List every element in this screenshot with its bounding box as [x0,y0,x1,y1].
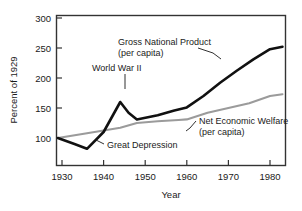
x-tick-label: 1940 [93,171,114,182]
annotation-world-war-ii: World War II [92,63,142,73]
annotation-net-economic-welfare: Net Economic Welfare (per capita) [199,116,288,137]
new-leader-line [186,121,196,131]
y-tick-label: 150 [35,103,51,114]
annotation-wwii-line1: World War II [92,63,142,73]
annotation-gnp-line1: Gross National Product [118,37,212,47]
great-depression-leader-line [96,140,104,144]
annotation-gnp: Gross National Product (per capita) [118,37,212,58]
y-tick-label: 100 [35,133,51,144]
annotation-new-line1: Net Economic Welfare [199,116,288,126]
y-axis-ticks [57,18,63,138]
line-chart: 300 250 200 150 100 Percent of 1929 1930… [0,0,302,211]
x-tick-label: 1980 [259,171,280,182]
chart-figure: 300 250 200 150 100 Percent of 1929 1930… [0,0,302,211]
y-tick-label: 250 [35,43,51,54]
x-tick-label: 1950 [135,171,156,182]
x-axis-ticks [62,160,270,166]
y-axis-tick-labels: 300 250 200 150 100 [35,13,51,144]
y-tick-label: 300 [35,13,51,24]
y-axis-title: Percent of 1929 [8,56,19,123]
x-axis-tick-labels: 1930 1940 1950 1960 1970 1980 [51,171,280,182]
annotation-new-line2: (per capita) [199,127,245,137]
gnp-leader-line [198,48,221,59]
x-axis-title: Year [161,189,180,200]
annotation-great-depression: Great Depression [107,140,178,150]
x-tick-label: 1930 [51,171,72,182]
annotation-gnp-line2: (per capita) [118,48,164,58]
x-tick-label: 1960 [176,171,197,182]
x-tick-label: 1970 [218,171,239,182]
annotation-great-depression-line1: Great Depression [107,140,178,150]
y-tick-label: 200 [35,73,51,84]
